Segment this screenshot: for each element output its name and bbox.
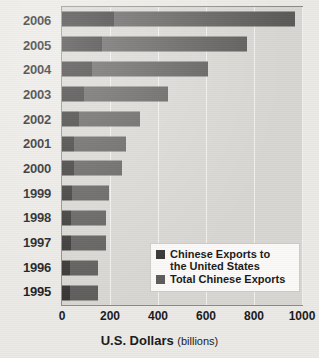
- y-axis-label-2006: 2006: [0, 8, 57, 33]
- bar-1999: [62, 186, 109, 201]
- bar-segment-us-exports-2000: [62, 161, 74, 176]
- legend-item-0: Chinese Exports tothe United States: [156, 248, 294, 272]
- y-axis-label-1998: 1998: [0, 205, 57, 230]
- bar-2006: [62, 12, 295, 27]
- bar-row-2003: [62, 81, 302, 106]
- bar-2002: [62, 111, 140, 126]
- y-axis-label-1995: 1995: [0, 279, 57, 304]
- chart-figure: 2006200520042003200220012000199919981997…: [0, 0, 319, 358]
- x-axis-title-main: U.S. Dollars: [101, 333, 174, 348]
- y-axis-label-2001: 2001: [0, 131, 57, 156]
- bar-segment-total-exports-2001: [74, 136, 125, 151]
- x-tick-1000: 1000: [289, 309, 316, 323]
- bar-row-2006: [62, 7, 302, 32]
- x-tick-400: 400: [148, 309, 168, 323]
- x-tick-0: 0: [59, 309, 66, 323]
- bar-segment-total-exports-2003: [84, 86, 168, 101]
- bar-row-1998: [62, 206, 302, 231]
- bar-segment-total-exports-1998: [71, 211, 106, 226]
- bar-segment-total-exports-1999: [72, 186, 109, 201]
- bar-segment-us-exports-1999: [62, 186, 72, 201]
- bar-row-2000: [62, 156, 302, 181]
- bar-2005: [62, 37, 247, 52]
- bar-segment-total-exports-2002: [79, 111, 140, 126]
- bar-segment-us-exports-1995: [62, 285, 70, 300]
- y-axis-label-1996: 1996: [0, 255, 57, 280]
- bar-segment-us-exports-2002: [62, 111, 79, 126]
- x-axis-title: U.S. Dollars (billions): [0, 333, 319, 348]
- bar-segment-total-exports-2000: [74, 161, 122, 176]
- x-tick-200: 200: [100, 309, 120, 323]
- bar-1995: [62, 285, 98, 300]
- chart-legend: Chinese Exports tothe United StatesTotal…: [150, 243, 300, 292]
- y-axis-label-2004: 2004: [0, 57, 57, 82]
- bar-segment-us-exports-1998: [62, 211, 71, 226]
- bar-segment-us-exports-1997: [62, 235, 71, 250]
- gridline-1000: [302, 7, 303, 305]
- bar-segment-us-exports-2006: [62, 12, 114, 27]
- legend-swatch-icon-dark: [156, 250, 165, 259]
- y-axis-label-1999: 1999: [0, 181, 57, 206]
- bar-row-2001: [62, 131, 302, 156]
- legend-label-0: Chinese Exports tothe United States: [170, 248, 270, 272]
- bar-segment-us-exports-2004: [62, 62, 92, 77]
- bar-segment-total-exports-2006: [114, 12, 295, 27]
- y-axis-label-2005: 2005: [0, 33, 57, 58]
- legend-item-1: Total Chinese Exports: [156, 273, 294, 285]
- y-axis-label-2000: 2000: [0, 156, 57, 181]
- bar-2001: [62, 136, 126, 151]
- bar-row-2005: [62, 32, 302, 57]
- y-axis-category-labels: 2006200520042003200220012000199919981997…: [0, 8, 57, 304]
- y-axis-label-1997: 1997: [0, 230, 57, 255]
- x-axis-title-unit: (billions): [177, 335, 218, 347]
- bar-1997: [62, 235, 106, 250]
- bar-segment-total-exports-1997: [71, 235, 106, 250]
- bar-segment-us-exports-2001: [62, 136, 74, 151]
- x-tick-600: 600: [196, 309, 216, 323]
- x-axis-tick-labels: 02004006008001000: [61, 309, 303, 325]
- bar-segment-total-exports-1995: [70, 285, 98, 300]
- bar-row-2004: [62, 57, 302, 82]
- y-axis-label-2002: 2002: [0, 107, 57, 132]
- x-tick-800: 800: [244, 309, 264, 323]
- bar-segment-total-exports-1996: [70, 260, 98, 275]
- bar-segment-us-exports-1996: [62, 260, 70, 275]
- bar-segment-us-exports-2005: [62, 37, 102, 52]
- bar-2000: [62, 161, 122, 176]
- bar-2003: [62, 86, 168, 101]
- y-axis-label-2003: 2003: [0, 82, 57, 107]
- bar-segment-total-exports-2005: [102, 37, 247, 52]
- bar-1996: [62, 260, 98, 275]
- bar-segment-us-exports-2003: [62, 86, 84, 101]
- bar-2004: [62, 62, 208, 77]
- bar-row-1999: [62, 181, 302, 206]
- bar-row-2002: [62, 106, 302, 131]
- bar-1998: [62, 211, 106, 226]
- legend-swatch-icon-light: [156, 275, 165, 284]
- bar-segment-total-exports-2004: [92, 62, 208, 77]
- legend-label-1: Total Chinese Exports: [170, 273, 285, 285]
